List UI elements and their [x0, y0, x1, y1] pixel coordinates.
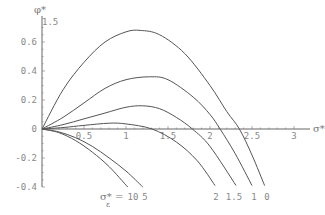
curve-sigma-1: [42, 77, 252, 186]
curve-label-10: 10: [128, 192, 139, 202]
curve-label-5: 5: [142, 192, 147, 202]
y-tick-label: -0.4: [15, 182, 37, 192]
x-tick-label: 2.5: [244, 131, 260, 141]
x-tick-label: 3: [291, 131, 296, 141]
curve-label-1: 1: [251, 192, 256, 202]
y-ticks: 0.60.40.20-0.2-0.4: [15, 28, 45, 193]
curve-sigma-0: [42, 30, 265, 185]
curve-label-prefix-subscript: ε: [106, 200, 110, 209]
y-axis-title: φ*: [34, 4, 46, 15]
x-tick-label: 2: [207, 131, 212, 141]
curve-labels: 011.52510σ* =ε: [100, 191, 270, 209]
x-tick-label: 1: [123, 131, 128, 141]
x-axis-title: σ*: [313, 123, 325, 134]
curve-label-prefix: σ* =: [100, 191, 123, 202]
curve-label-1.5: 1.5: [226, 192, 242, 202]
curve-label-2: 2: [213, 192, 218, 202]
chart: 0.511.522.53 0.60.40.20-0.2-0.4 φ* 1.5 σ…: [0, 0, 325, 215]
y-tick-label: 0.6: [21, 37, 37, 47]
curve-label-0: 0: [264, 192, 269, 202]
y-tick-label: 0: [32, 124, 37, 134]
y-tick-label: 0.2: [21, 95, 37, 105]
x-ticks: 0.511.522.53: [50, 126, 296, 141]
y-tick-label: 0.4: [21, 66, 37, 76]
axes: [42, 16, 310, 187]
y-axis-top-label: 1.5: [42, 17, 58, 27]
x-tick-label: 0.5: [76, 131, 92, 141]
curves: [42, 30, 265, 187]
y-tick-label: -0.2: [15, 153, 37, 163]
x-tick-label: 1.5: [160, 131, 176, 141]
